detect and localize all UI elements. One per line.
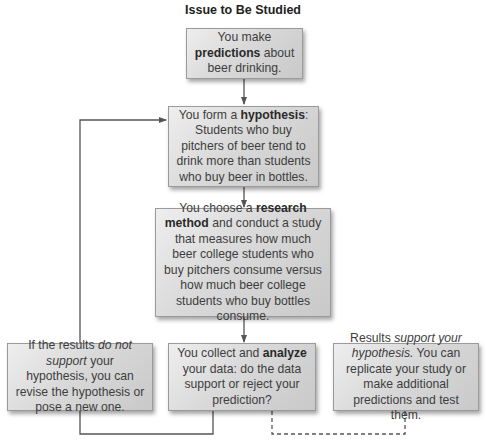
analyze-term: analyze xyxy=(263,346,307,360)
research-method-box: You choose a research method and conduct… xyxy=(155,208,331,317)
arrow-revise-to-hypothesis xyxy=(80,120,166,343)
hypothesis-term: hypothesis xyxy=(241,108,305,122)
supported-box: Results support your hypothesis. You can… xyxy=(333,343,479,411)
predictions-box: You make predictions about beer drinking… xyxy=(186,28,303,79)
analyze-box: You collect and analyze your data: do th… xyxy=(168,343,316,411)
predictions-term: predictions xyxy=(195,46,261,60)
hypothesis-box: You form a hypothesis: Students who buy … xyxy=(168,106,319,187)
not-supported-box: If the results do not support your hypot… xyxy=(7,343,153,411)
